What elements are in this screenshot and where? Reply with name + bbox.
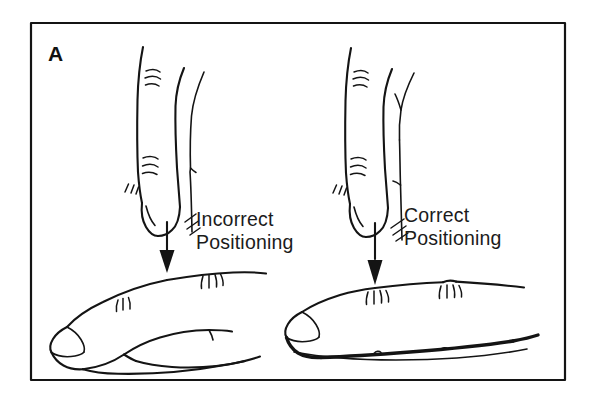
caption-incorrect-line2: Positioning: [196, 231, 294, 253]
caption-correct-line1: Correct: [404, 204, 470, 226]
panel-label: A: [48, 42, 63, 65]
caption-incorrect-line1: Incorrect: [196, 208, 274, 230]
figure-illustration-canvas: A: [0, 0, 591, 401]
caption-correct-line2: Positioning: [404, 227, 502, 249]
figure-panel-a: A: [0, 0, 591, 401]
adjacent-finger-mid: [400, 140, 401, 185]
